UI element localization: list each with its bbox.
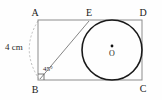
vertex-label-b: B <box>32 84 39 95</box>
circle-center-dot <box>111 45 114 48</box>
center-label-o: O <box>109 49 115 58</box>
geometry-figure-canvas: A E D B C O 4 cm 45° <box>0 0 162 100</box>
angle-label-45: 45° <box>43 65 53 73</box>
figure-background <box>0 0 162 100</box>
side-length-label: 4 cm <box>5 42 23 52</box>
vertex-label-d: D <box>139 7 146 18</box>
vertex-label-a: A <box>31 7 39 18</box>
vertex-label-e: E <box>86 7 92 18</box>
geometry-diagram: A E D B C O 4 cm 45° <box>0 0 162 100</box>
vertex-label-c: C <box>140 83 147 94</box>
